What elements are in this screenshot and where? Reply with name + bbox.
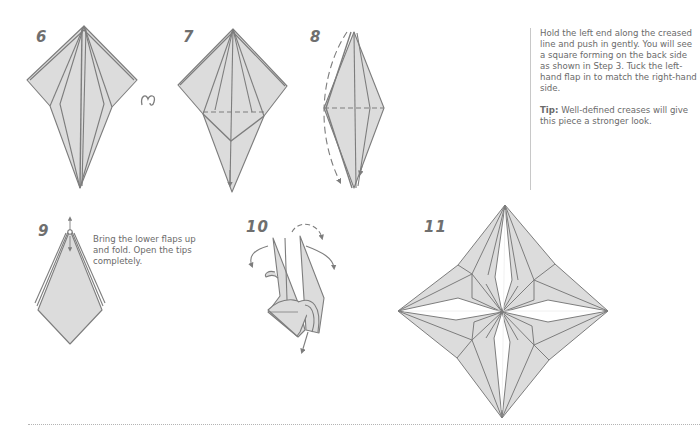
instruction-text: Hold the left end along the creased line… (540, 28, 698, 127)
step-9-caption: Bring the lower flaps up and fold. Open … (93, 234, 213, 267)
tip-label: Tip: (540, 105, 558, 115)
step-11-diagram (398, 205, 608, 418)
tip-block: Tip: Well-defined creases will give this… (540, 105, 698, 127)
step-8-diagram (324, 32, 384, 188)
tip-text: Well-defined creases will give this piec… (540, 105, 688, 126)
step-10-diagram (251, 224, 334, 352)
step-6-diagram (27, 26, 137, 188)
origami-instruction-page: 6 7 8 9 10 11 (0, 0, 700, 428)
instruction-main: Hold the left end along the creased line… (540, 28, 698, 94)
turn-over-icon (142, 96, 155, 105)
footer-dotted-rule (28, 424, 700, 425)
step-7-diagram (178, 29, 287, 192)
column-divider (530, 28, 531, 190)
